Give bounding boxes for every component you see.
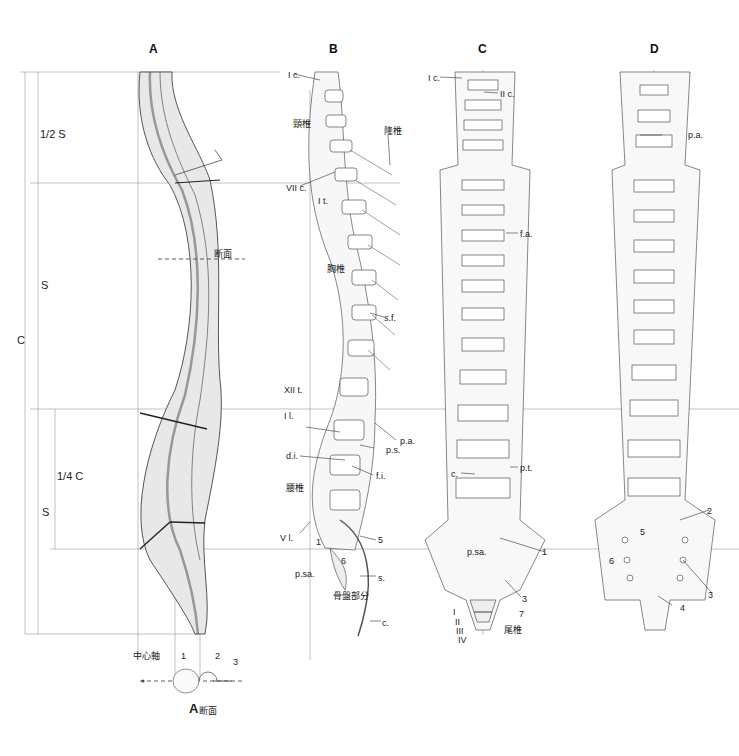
b-viic: VII c. — [286, 183, 307, 193]
b-prominens: 隆椎 — [384, 126, 402, 136]
b-fi: f.i. — [376, 471, 386, 481]
c-ic: I c. — [428, 73, 440, 83]
panel-b-title: B — [329, 42, 338, 56]
c-measure: C — [17, 335, 25, 345]
c-n3: 3 — [522, 594, 527, 604]
b-sf: s.f. — [384, 313, 396, 323]
panel-d-title: D — [650, 42, 659, 56]
b-xiit: XII t. — [284, 385, 303, 395]
cross-section-2: 2 — [215, 651, 220, 661]
d-n5: 5 — [640, 527, 645, 537]
d-n2: 2 — [707, 506, 712, 516]
b-vl: V l. — [280, 533, 293, 543]
panel-b-drawing — [309, 72, 400, 636]
b-cervical: 頸椎 — [293, 119, 311, 129]
b-ps: p.s. — [386, 445, 401, 455]
panel-d-drawing — [595, 72, 715, 630]
c-r4: IV — [458, 635, 467, 645]
s-lower-measure: S — [42, 507, 49, 517]
c-n1: 1 — [542, 547, 547, 557]
quarter-c-measure: 1/4 C — [57, 471, 83, 481]
cross-section-title: 断面 — [199, 706, 217, 716]
c-pt: p.t. — [520, 463, 533, 473]
c-r1: I — [453, 607, 456, 617]
b-n1: 1 — [316, 537, 321, 547]
c-fa: f.a. — [520, 229, 533, 239]
b-n5: 5 — [378, 535, 383, 545]
d-n3: 3 — [708, 590, 713, 600]
b-c: c. — [382, 618, 389, 628]
center-axis-label: 中心軸 — [133, 651, 160, 661]
spine-anatomy-plate: A B C D 1/2 S S C 1/4 C S 断面 中心軸 1 2 3 A… — [0, 0, 739, 756]
panel-a-drawing — [139, 72, 245, 693]
cross-section-1: 1 — [181, 651, 186, 661]
b-pa: p.a. — [400, 436, 415, 446]
cross-section-3: 3 — [233, 657, 238, 667]
c-coccyx: 尾椎 — [504, 625, 522, 635]
section-label: 断面 — [214, 249, 232, 259]
b-il: I l. — [284, 411, 294, 421]
d-pa: p.a. — [688, 130, 703, 140]
b-n6: 6 — [341, 556, 346, 566]
c-c: c. — [451, 469, 458, 479]
d-n4: 4 — [680, 603, 685, 613]
c-n7: 7 — [519, 609, 524, 619]
cross-section-letter: A — [189, 704, 198, 714]
b-it: I t. — [318, 196, 328, 206]
b-lumbar: 腰椎 — [286, 483, 304, 493]
b-pelvic: 骨盤部分 — [333, 591, 369, 601]
half-s-measure: 1/2 S — [40, 129, 66, 139]
c-psa: p.sa. — [467, 547, 487, 557]
drawing-canvas — [0, 0, 739, 756]
b-s: s. — [378, 573, 385, 583]
s-upper-measure: S — [41, 280, 48, 290]
b-di: d.i. — [286, 451, 298, 461]
d-n6: 6 — [609, 556, 614, 566]
panel-c-title: C — [478, 42, 487, 56]
panel-a-title: A — [149, 42, 158, 56]
b-thoracic: 胸椎 — [327, 264, 345, 274]
b-ic: I c. — [288, 70, 300, 80]
c-iic: II c. — [500, 89, 515, 99]
b-psa: p.sa. — [295, 569, 315, 579]
